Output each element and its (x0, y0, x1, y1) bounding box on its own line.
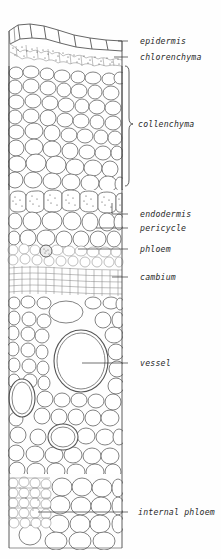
label-collenchyma: collenchyma (138, 119, 194, 129)
label-vessel: vessel (140, 358, 171, 368)
label-cambium: cambium (140, 272, 176, 282)
internal-phloem-dense-patch (8, 477, 51, 528)
xylem-layer (7, 296, 125, 480)
stem-cross-section-figure: epidermis chlorenchyma collenchyma endod… (0, 0, 221, 559)
label-internal-phloem: internal phloem (138, 507, 215, 517)
internal-phloem-layer (8, 477, 124, 550)
label-endodermis: endodermis (140, 209, 191, 219)
pericycle-layer (8, 212, 124, 247)
label-phloem: phloem (139, 244, 171, 254)
phloem-layer (8, 244, 123, 267)
endodermis-layer (10, 190, 122, 213)
label-chlorenchyma: chlorenchyma (140, 52, 202, 62)
main-vessel (54, 330, 108, 392)
label-pericycle: pericycle (139, 223, 186, 233)
label-text-group: epidermis chlorenchyma collenchyma endod… (138, 36, 215, 517)
cambium-layer (9, 266, 122, 296)
label-epidermis: epidermis (140, 36, 186, 46)
collenchyma-layer (7, 66, 126, 192)
phloem-stippled-cell (40, 245, 52, 257)
